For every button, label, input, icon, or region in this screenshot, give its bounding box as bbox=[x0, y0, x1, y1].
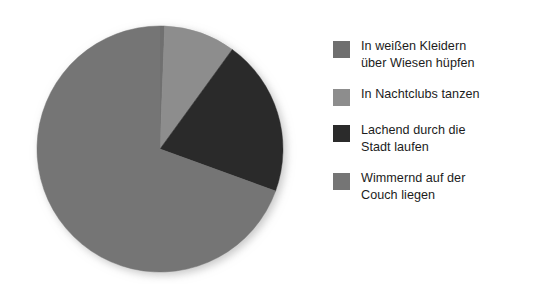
chart-legend: In weißen Kleidern über Wiesen hüpfen In… bbox=[333, 38, 533, 217]
legend-item-label: Wimmernd auf der Couch liegen bbox=[361, 170, 465, 203]
legend-item-label: In Nachtclubs tanzen bbox=[361, 86, 480, 103]
legend-swatch-icon bbox=[333, 89, 350, 106]
legend-item-nachtclubs[interactable]: In Nachtclubs tanzen bbox=[333, 86, 533, 106]
legend-item-label: In weißen Kleidern über Wiesen hüpfen bbox=[361, 38, 475, 71]
legend-swatch-icon bbox=[333, 173, 350, 190]
legend-item-wimmernd[interactable]: Wimmernd auf der Couch liegen bbox=[333, 170, 533, 203]
legend-swatch-icon bbox=[333, 125, 350, 142]
legend-item-weisse-kleidern[interactable]: In weißen Kleidern über Wiesen hüpfen bbox=[333, 38, 533, 71]
pie-chart-area bbox=[20, 14, 310, 284]
pie-chart-figure: In weißen Kleidern über Wiesen hüpfen In… bbox=[0, 0, 538, 289]
pie-chart-svg bbox=[20, 14, 310, 284]
pie-slices-group bbox=[37, 26, 283, 272]
legend-item-label: Lachend durch die Stadt laufen bbox=[361, 122, 465, 155]
legend-item-lachend[interactable]: Lachend durch die Stadt laufen bbox=[333, 122, 533, 155]
legend-swatch-icon bbox=[333, 41, 350, 58]
